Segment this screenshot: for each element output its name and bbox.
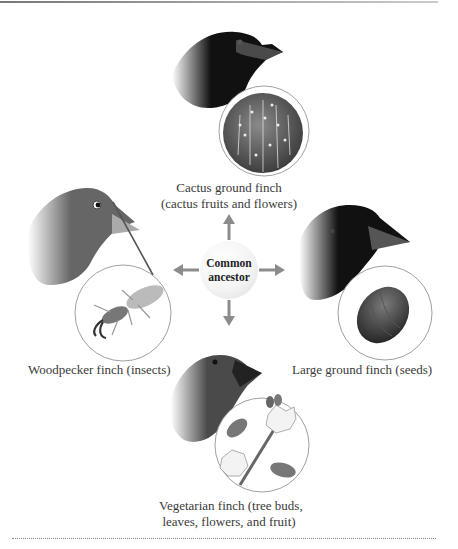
common-ancestor-node: Common ancestor [200,241,258,299]
common-ancestor-line1: Common [206,256,251,270]
common-ancestor-line2: ancestor [208,270,250,284]
vegetarian-finch-label: Vegetarian finch (tree buds, leaves, flo… [159,498,299,530]
cactus-ground-finch-label: Cactus ground finch (cactus fruits and f… [159,180,299,212]
large-ground-finch-label: Large ground finch (seeds) [292,362,432,378]
woodpecker-finch-label: Woodpecker finch (insects) [28,362,171,378]
bottom-dotted-rule [12,538,436,539]
